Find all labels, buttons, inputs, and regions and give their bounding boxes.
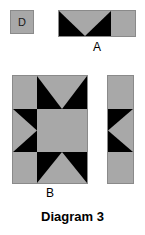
piece-b-corner-bottom-left [13, 152, 37, 183]
piece-b-flying-geese-bottom [37, 152, 87, 183]
piece-d: D [10, 10, 34, 34]
piece-b [12, 75, 88, 184]
label-b: B [12, 186, 88, 200]
piece-d-label: D [11, 11, 33, 33]
piece-a-plain-square [111, 11, 135, 36]
diagram-canvas: D A B Diagram 3 [0, 0, 145, 235]
piece-b-center-square [37, 109, 87, 152]
piece-a [58, 10, 136, 37]
piece-c-flying-geese-left [108, 109, 133, 152]
piece-c-plain-square-top [108, 76, 133, 109]
piece-a-flying-geese-down [59, 11, 111, 36]
diagram-caption: Diagram 3 [0, 209, 145, 225]
piece-c-plain-square-bottom [108, 152, 133, 183]
label-a: A [58, 40, 136, 54]
gray-triangle-left [108, 109, 133, 152]
gray-triangle-down [37, 76, 87, 109]
piece-b-flying-geese-top [37, 76, 87, 109]
piece-c [107, 75, 134, 184]
gray-triangle-up [37, 152, 87, 183]
gray-triangle-down [59, 11, 111, 36]
gray-triangle-right [13, 109, 37, 152]
piece-b-corner-top-left [13, 76, 37, 109]
piece-b-flying-geese-left [13, 109, 37, 152]
